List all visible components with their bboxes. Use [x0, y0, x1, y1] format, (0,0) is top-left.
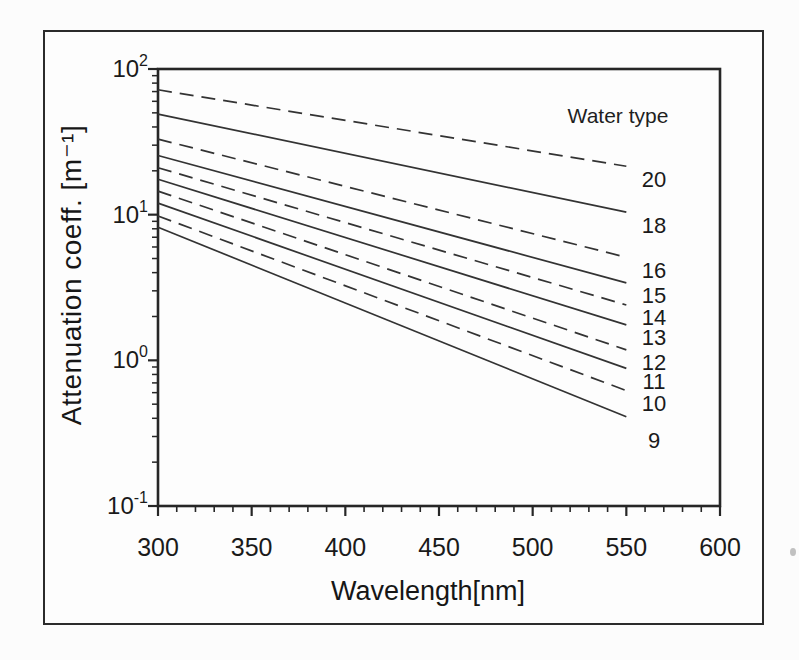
x-tick-label: 550 [605, 533, 647, 561]
y-axis-title: Attenuation coeff. [m⁻¹] [55, 125, 88, 425]
scan-artifact-speck [790, 548, 796, 556]
x-tick-label: 350 [231, 533, 273, 561]
water-type-18-line [158, 114, 626, 212]
water-type-15-line [158, 155, 626, 282]
y-tick-label: 10-1 [107, 489, 148, 519]
legend-title: Water type [568, 104, 669, 128]
water-type-18-label: 18 [642, 213, 666, 238]
y-tick-label: 100 [112, 343, 148, 373]
x-tick-label: 300 [137, 533, 179, 561]
water-type-12-line [158, 191, 626, 350]
water-type-9-line [158, 227, 626, 417]
water-type-20-label: 20 [642, 167, 666, 192]
water-type-10-label: 10 [642, 391, 666, 416]
x-tick-label: 500 [512, 533, 554, 561]
water-type-13-label: 13 [642, 325, 666, 350]
y-tick-label: 101 [112, 198, 148, 228]
plot-frame [158, 69, 720, 506]
x-tick-label: 450 [418, 533, 460, 561]
water-type-16-label: 16 [642, 258, 666, 283]
water-type-11-line [158, 203, 626, 368]
x-tick-label: 600 [699, 533, 741, 561]
water-type-9-label: 9 [648, 428, 660, 453]
x-axis-title: Wavelength[nm] [331, 576, 525, 607]
scanned-figure-page: 30035040045050055060010210110010-1201816… [0, 0, 799, 660]
water-type-14-line [158, 168, 626, 305]
x-tick-label: 400 [324, 533, 366, 561]
attenuation-vs-wavelength-chart: 30035040045050055060010210110010-1201816… [0, 0, 799, 660]
y-tick-label: 102 [112, 52, 148, 82]
